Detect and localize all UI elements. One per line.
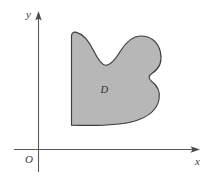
coordinate-figure: y x O D bbox=[0, 0, 214, 180]
figure-container: y x O D bbox=[0, 0, 214, 180]
origin-label: O bbox=[25, 153, 33, 165]
region-label-d: D bbox=[100, 84, 109, 95]
y-axis-label: y bbox=[25, 8, 31, 20]
shaded-region-d bbox=[72, 32, 161, 125]
x-axis-label: x bbox=[194, 155, 200, 167]
